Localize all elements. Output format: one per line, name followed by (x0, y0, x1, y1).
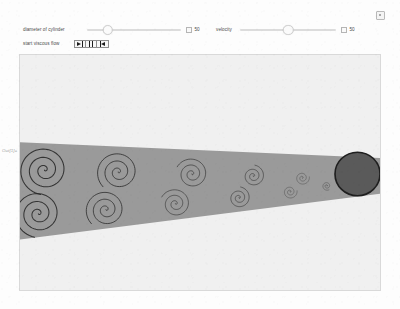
cylinder-body (335, 152, 380, 196)
velocity-value: 50 (350, 28, 355, 33)
play-button[interactable] (75, 41, 86, 48)
diameter-value-readout: 50 (186, 24, 200, 36)
simulation-canvas[interactable] (19, 54, 381, 291)
diameter-label: diameter of cylinder (23, 28, 65, 33)
diameter-slider-knob[interactable] (102, 25, 113, 36)
velocity-slider-wrap (240, 24, 336, 36)
window-resize-icon-inner (379, 14, 381, 16)
animator-label-row: start viscous flow (23, 38, 59, 50)
velocity-slider[interactable] (240, 25, 336, 36)
diameter-control-row: diameter of cylinder (23, 24, 65, 36)
diameter-slider-track[interactable] (87, 29, 181, 30)
diameter-slider-wrap (87, 24, 181, 36)
step-button[interactable] (97, 41, 108, 48)
animation-button-group (74, 40, 109, 49)
pause-icon (89, 41, 93, 46)
animator-buttons-row (74, 38, 109, 50)
velocity-control-row: velocity (216, 24, 232, 36)
value-box-toggle-icon[interactable] (186, 27, 192, 33)
play-icon-bar (82, 41, 83, 46)
window-resize-icon[interactable] (376, 11, 385, 20)
output-cell-label: Out[1]= (2, 148, 17, 153)
step-icon (100, 41, 106, 46)
value-box-toggle-icon[interactable] (341, 27, 347, 33)
diameter-slider[interactable] (87, 25, 181, 36)
animator-label: start viscous flow (23, 42, 59, 47)
play-icon (77, 42, 81, 46)
pause-button[interactable] (86, 41, 97, 48)
diameter-value: 50 (195, 28, 200, 33)
karman-vortex-street-graphic (20, 55, 380, 290)
velocity-value-readout: 50 (341, 24, 355, 36)
velocity-label: velocity (216, 28, 232, 33)
velocity-slider-knob[interactable] (283, 25, 294, 36)
